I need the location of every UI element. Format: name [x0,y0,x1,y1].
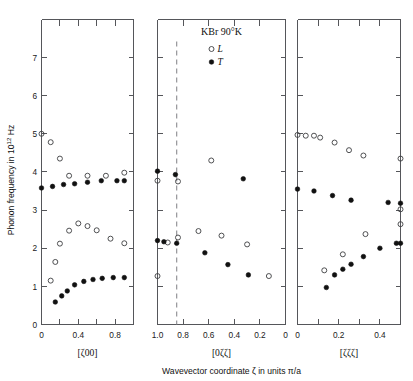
phonon-dispersion-figure: 01234567Phonon frequency in 1012 Hz00.40… [0,0,413,381]
data-point-T [394,241,399,246]
data-point-T [349,262,354,267]
data-point-L [318,135,323,140]
data-point-T [295,187,300,192]
data-point-T [72,283,77,288]
panel-zeta00-series-T [39,178,126,304]
data-point-L [322,268,327,273]
y-ticklabel-3: 3 [32,205,37,215]
y-ticklabel-5: 5 [32,129,37,139]
data-point-L [303,133,308,138]
data-point-L [340,252,345,257]
data-point-L [245,242,250,247]
panel-zeta00-x-ticklabel: 0.8 [109,330,121,340]
legend-entry-T: T [209,57,223,67]
panel-zeta00-axis-label: [ζ00] [78,347,98,359]
panel-zetazetazeta-axis-label: [ζζζ] [340,347,358,359]
data-point-T [330,193,335,198]
data-point-T [246,273,251,278]
data-point-T [241,176,246,181]
data-point-L [175,235,180,240]
panel-0zetazeta-x-ticklabel: 0.8 [177,330,189,340]
panel-0zetazeta-x-ticklabel: 0.4 [229,330,241,340]
data-point-L [332,140,337,145]
data-point-L [48,278,53,283]
data-point-T [111,275,116,280]
y-ticklabel-4: 4 [32,167,37,177]
chart-title: KBr 90°K [201,26,243,37]
data-point-L [361,153,366,158]
data-point-L [196,229,201,234]
data-point-L [57,156,62,161]
y-axis-title-text: Phonon frequency in 1012 Hz [5,125,17,236]
data-point-T [155,238,160,243]
data-point-L [76,221,81,226]
data-point-T [122,178,127,183]
legend-label-L: L [217,44,223,54]
data-point-T [39,186,44,191]
data-point-T [61,182,66,187]
data-point-T [155,169,160,174]
data-point-L [122,241,127,246]
panel-0zetazeta-x-ticklabel: 0.6 [203,330,215,340]
y-ticklabel-1: 1 [32,282,37,292]
data-point-T [65,289,70,294]
data-point-T [99,178,104,183]
data-point-L [266,274,271,279]
data-point-L [85,224,90,229]
y-axis-exponent: 12 [5,137,12,144]
data-point-T [50,184,55,189]
data-point-L [57,241,62,246]
data-point-L [67,228,72,233]
legend-entry-L: L [209,44,223,54]
data-point-L [108,236,113,241]
panel-0zetazeta: 1.00.80.60.40.20[0ζζ] [152,20,288,360]
data-point-T [82,279,87,284]
panel-0zetazeta-x-ticklabel: 1.0 [152,330,164,340]
panel-zetazetazeta-x-ticklabel: 0 [295,330,300,340]
panel-0zetazeta-axis-label: [0ζζ] [212,347,231,359]
x-axis-caption: Wavevector coordinate ζ in units π/a [162,366,301,376]
panel-zeta00-x-ticklabel: 0 [39,330,44,340]
data-point-L [347,148,352,153]
axes-group: 01234567 [32,53,46,330]
data-point-T [398,201,403,206]
legend-filled-circle-icon [209,60,214,65]
data-point-T [72,181,77,186]
data-point-L [363,232,368,237]
chart-canvas: 01234567Phonon frequency in 1012 Hz00.40… [0,0,413,381]
y-ticklabel-7: 7 [32,53,37,63]
data-point-L [94,228,99,233]
panel-zetazetazeta-x-ticklabel: 0.2 [333,330,345,340]
data-point-L [209,158,214,163]
panel-0zetazeta-series-T [155,169,250,277]
data-point-T [122,275,127,280]
data-point-T [174,241,179,246]
panel-0zetazeta-x-ticklabel: 0.2 [254,330,266,340]
panel-zetazetazeta: 00.20.4[ζζζ] [295,20,403,360]
data-point-L [311,133,316,138]
data-point-T [203,250,208,255]
panel-zeta00-x-ticklabel: 0.4 [73,330,85,340]
data-point-T [226,262,231,267]
panel-0zetazeta-x-ticklabel: 0 [283,330,288,340]
data-point-L [219,233,224,238]
data-point-T [59,294,64,299]
y-ticklabel-2: 2 [32,243,37,253]
data-point-T [312,189,317,194]
data-point-T [115,178,120,183]
data-point-L [67,173,72,178]
data-point-T [386,200,391,205]
panel-zeta00: 00.40.8[ζ00] [39,20,134,360]
data-point-T [53,300,58,305]
data-point-T [324,285,329,290]
panel-zetazetazeta-x-ticklabel: 0.4 [374,330,386,340]
data-point-T [173,172,178,177]
data-point-T [162,239,167,244]
data-point-T [100,276,105,281]
panel-zetazetazeta-series-T [295,187,403,290]
legend-open-circle-icon [209,47,214,52]
data-point-L [103,173,108,178]
y-ticklabel-0: 0 [32,320,37,330]
data-point-L [85,173,90,178]
panel-zeta00-series-L [39,131,127,283]
